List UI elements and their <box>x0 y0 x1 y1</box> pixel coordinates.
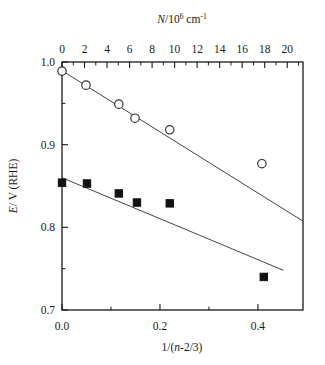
left-axis-tick-labels: 1.00.90.80.7 <box>41 56 56 316</box>
data-point-filled-square <box>260 273 267 280</box>
left-axis-title: E/ V (RHE) <box>7 159 20 215</box>
left-tick-label: 1.0 <box>41 56 56 68</box>
bottom-tick-label: 0.0 <box>55 320 70 332</box>
data-point-open-circle <box>82 81 90 89</box>
top-tick-label: 8 <box>149 43 155 55</box>
top-tick-label: 10 <box>169 43 181 55</box>
bottom-axis-title: 1/(n-2/3) <box>162 341 203 354</box>
data-point-open-circle <box>58 67 66 75</box>
left-tick-label: 0.8 <box>41 221 56 233</box>
data-point-open-circle <box>131 114 139 122</box>
data-point-filled-square <box>166 200 173 207</box>
left-tick-label: 0.7 <box>41 304 56 316</box>
data-point-open-circle <box>166 126 174 134</box>
data-point-filled-square <box>133 199 140 206</box>
top-tick-label: 18 <box>259 43 271 55</box>
top-tick-label: 0 <box>59 43 65 55</box>
series-filled-squares-markers <box>58 179 267 281</box>
top-tick-label: 20 <box>281 43 293 55</box>
bottom-tick-label: 0.2 <box>153 320 168 332</box>
top-tick-label: 4 <box>104 43 110 55</box>
top-tick-label: 16 <box>236 43 248 55</box>
fit-line-open-circles <box>62 71 303 221</box>
top-tick-label: 2 <box>82 43 88 55</box>
top-axis-title: N/106 cm-1 <box>156 12 207 25</box>
bottom-tick-label: 0.4 <box>251 320 266 332</box>
trend-lines <box>62 71 303 271</box>
left-tick-label: 0.9 <box>41 139 56 151</box>
figure-container: 02468101214161820 0.00.20.4 1.00.90.80.7… <box>0 0 325 365</box>
top-axis-tick-labels: 02468101214161820 <box>59 43 293 55</box>
fit-line-filled-squares <box>62 178 283 271</box>
data-point-filled-square <box>115 190 122 197</box>
data-point-filled-square <box>58 179 65 186</box>
series-open-circles-markers <box>58 67 266 168</box>
data-point-open-circle <box>115 100 123 108</box>
top-tick-label: 12 <box>191 43 203 55</box>
scatter-plot: 02468101214161820 0.00.20.4 1.00.90.80.7… <box>0 0 325 365</box>
bottom-axis-tick-labels: 0.00.20.4 <box>55 320 266 332</box>
top-tick-label: 6 <box>127 43 133 55</box>
top-tick-label: 14 <box>214 43 226 55</box>
data-point-filled-square <box>83 180 90 187</box>
data-point-open-circle <box>258 159 266 167</box>
